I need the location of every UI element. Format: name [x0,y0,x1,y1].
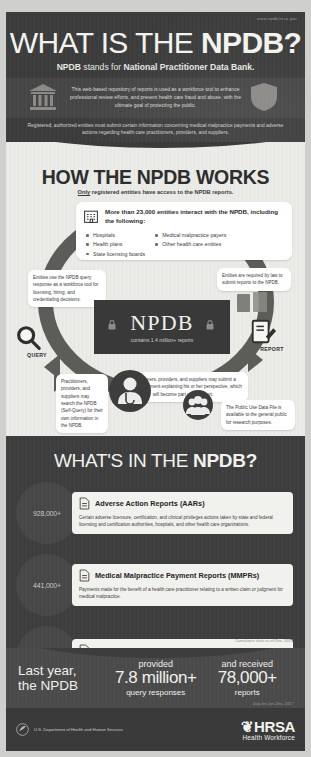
document-icon [79,497,90,510]
contents-title-bold: NPDB? [193,450,257,471]
report-pencil-icon [249,318,295,346]
how-it-works-section: HOW THE NPDB WORKS Only registered entit… [6,142,305,436]
report-count-mmpr: 441,000+ [16,554,78,616]
hrsa-branding: ❦HRSA Health Workforce [241,719,295,741]
callout-self-query: Practitioners, providers, and suppliers … [56,374,108,433]
list-item: Hospitals [86,231,145,240]
hero-subtitle-npdb: NPDB [57,62,81,72]
lock-icon [206,320,214,330]
page-title-bold: NPDB? [201,26,301,59]
stats-received: and received 78,000+ reports [202,659,294,697]
hrsa-word-text: HRSA [254,718,295,735]
page-title-light: WHAT IS THE [10,26,201,59]
list-item: Other health care entities [155,240,226,249]
hrsa-wordmark: ❦HRSA [241,719,295,734]
works-subtitle-rest: registered entities have access to the N… [90,189,233,195]
hhs-seal-icon [16,723,29,736]
site-url: www.npdb.hrsa.gov [257,16,297,21]
hero-footer-text: Registered, authorized entities must sub… [24,122,287,137]
yearly-stats-section: Last year, the NPDB provided 7.8 million… [6,648,305,708]
hospital-building-icon [83,208,99,224]
callout-report-required: Entities are required by law to submit r… [217,268,291,291]
badge-query-label: QUERY [14,352,60,358]
report-type-rows: 928,000+ Adverse Action Reports (AARs) C… [16,482,293,648]
entities-list-column-1: Hospitals Health plans State licensing b… [86,231,145,259]
hero-band-text: This web-based repository of reports is … [63,86,249,109]
list-item: Health plans [86,240,145,249]
stats-provided: provided 7.8 million+ query responses [110,659,202,697]
entities-list-column-2: Medical malpractice payers Other health … [155,231,226,259]
report-title-aar: Adverse Action Reports (AARs) [95,499,205,508]
table-row: 441,000+ Medical Malpractice Payment Rep… [16,554,293,616]
whats-in-npdb-section: WHAT'S IN THE NPDB? 928,000+ Adverse Act… [6,436,305,648]
npdb-center-title: NPDB [130,312,194,334]
entities-heading: More than 23,000 entities interact with … [105,208,284,226]
report-card-mmpr: Medical Malpractice Payment Reports (MMP… [72,564,293,607]
works-subtitle-only: Only [78,189,91,195]
contents-note: Cumulative data as of Dec. 2017 [235,638,293,643]
badge-query: QUERY [14,324,60,358]
lock-icon [108,320,116,330]
hrsa-subtitle: Health Workforce [241,734,295,741]
hero-subtitle: NPDB stands for National Practitioner Da… [6,62,305,72]
stats-provided-value: 7.8 million+ [110,669,202,688]
hero-section: www.npdb.hrsa.gov WHAT IS THE NPDB? NPDB… [6,12,305,142]
practitioner-icon [109,370,151,412]
stats-lead-line1: Last year, [18,663,110,678]
npdb-center-subtitle: contains 1.4 million+ reports [131,337,193,343]
works-subtitle: Only registered entities have access to … [6,189,305,195]
contents-title-light: WHAT'S IN THE [54,450,193,471]
badge-report: REPORT [249,318,295,352]
report-count-jocr: 33,000+ [16,626,78,648]
infographic-page: www.npdb.hrsa.gov WHAT IS THE NPDB? NPDB… [0,0,311,757]
badge-report-label: REPORT [249,346,295,352]
hero-subtitle-mid: stands for [81,62,124,72]
report-body-mmpr: Payments made for the benefit of a healt… [79,586,286,601]
section-notch [6,142,305,148]
magnifier-icon [14,324,60,352]
table-row: 33,000+ Judgment or Conviction Reports (… [16,626,293,648]
stats-provided-unit: query responses [110,688,202,697]
contents-title: WHAT'S IN THE NPDB? [6,450,305,472]
npdb-center-plate: NPDB contains 1.4 million+ reports [94,300,230,354]
bank-icon [28,82,58,112]
page-footer: U.S. Department of Health and Human Serv… [6,708,305,751]
stats-received-value: 78,000+ [202,669,294,688]
callout-public-use-file: The Public Use Data File is available to… [221,400,295,430]
works-title: HOW THE NPDB WORKS [6,166,305,189]
hrsa-mark-icon: ❦ [241,718,254,735]
page-title: WHAT IS THE NPDB? [6,28,305,58]
list-item: State licensing boards [86,250,145,259]
stats-lead-line2: the NPDB [18,678,110,693]
hhs-text: U.S. Department of Health and Human Serv… [34,727,123,732]
report-title-mmpr: Medical Malpractice Payment Reports (MMP… [95,571,259,580]
report-card-aar: Adverse Action Reports (AARs) Certain ad… [72,492,293,535]
public-group-icon [183,390,213,420]
hero-subtitle-expansion: National Practitioner Data Bank. [124,62,255,72]
table-row: 928,000+ Adverse Action Reports (AARs) C… [16,482,293,544]
stats-note: Data for Jan.-Dec. 2017 [253,702,293,706]
hhs-branding: U.S. Department of Health and Human Serv… [16,723,123,736]
document-icon [79,569,90,582]
list-item: Medical malpractice payers [155,231,226,240]
report-body-aar: Certain adverse licensure, certification… [79,514,286,529]
documents-icon [235,290,269,316]
stats-lead: Last year, the NPDB [18,663,110,693]
stats-received-unit: reports [202,688,294,697]
entities-card: More than 23,000 entities interact with … [76,202,292,260]
report-count-aar: 928,000+ [16,482,78,544]
shield-icon [249,82,279,112]
